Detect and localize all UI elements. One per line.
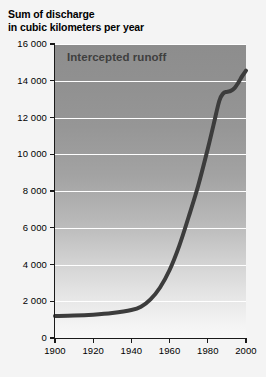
x-tick-1920	[93, 338, 94, 343]
y-tick-label-2000: 2 000	[23, 295, 47, 306]
y-tick-8000	[50, 190, 55, 191]
y-tick-4000	[50, 264, 55, 265]
y-tick-label-12000: 12 000	[17, 112, 47, 123]
y-tick-2000	[50, 301, 55, 302]
y-tick-label-6000: 6 000	[23, 222, 47, 233]
chart-title-line-2: in cubic kilometers per year	[8, 21, 258, 34]
chart-title-line-1: Sum of discharge	[8, 8, 258, 21]
x-axis-line	[54, 338, 247, 339]
y-tick-12000	[50, 117, 55, 118]
x-tick-label-1900: 1900	[35, 345, 75, 356]
y-tick-label-8000: 8 000	[23, 185, 47, 196]
chart-title: Sum of discharge in cubic kilometers per…	[8, 8, 258, 33]
y-tick-14000	[50, 80, 55, 81]
y-tick-label-10000: 10 000	[17, 148, 47, 159]
x-tick-1940	[131, 338, 132, 343]
data-curve-intercepted-runoff	[55, 44, 246, 338]
y-tick-label-14000: 14 000	[17, 75, 47, 86]
y-tick-10000	[50, 154, 55, 155]
x-tick-label-1920: 1920	[73, 345, 113, 356]
x-tick-label-2000: 2000	[226, 345, 266, 356]
x-tick-label-1980: 1980	[188, 345, 228, 356]
chart-container: Sum of discharge in cubic kilometers per…	[0, 0, 266, 377]
plot-area: Intercepted runoff	[55, 44, 246, 338]
x-tick-label-1940: 1940	[111, 345, 151, 356]
x-tick-1960	[169, 338, 170, 343]
x-tick-label-1960: 1960	[150, 345, 190, 356]
y-tick-label-4000: 4 000	[23, 259, 47, 270]
y-tick-label-16000: 16 000	[17, 38, 47, 49]
x-tick-1980	[207, 338, 208, 343]
y-tick-6000	[50, 227, 55, 228]
x-tick-2000	[245, 338, 246, 343]
y-tick-16000	[50, 43, 55, 44]
y-tick-label-0: 0	[42, 332, 47, 343]
x-tick-1900	[54, 338, 55, 343]
